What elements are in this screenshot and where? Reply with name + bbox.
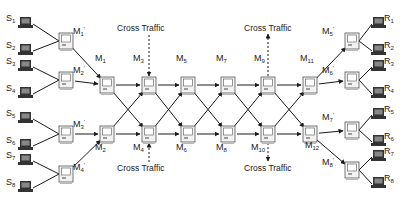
host-link-R3 bbox=[359, 67, 372, 80]
host-link-S3 bbox=[33, 67, 59, 80]
laptop-icon bbox=[18, 112, 33, 123]
router-label: M4 bbox=[133, 142, 145, 153]
laptop-icon bbox=[18, 139, 33, 150]
sender-label: S2 bbox=[6, 40, 16, 51]
router-icon bbox=[345, 33, 359, 51]
router-icon bbox=[142, 126, 156, 144]
host-link-R4 bbox=[359, 80, 372, 94]
link-M12-M7' bbox=[319, 131, 343, 133]
router-label: M2' bbox=[73, 65, 85, 76]
laptop-icon bbox=[18, 44, 33, 55]
laptop-icon bbox=[18, 154, 33, 165]
router-label: M3 bbox=[133, 53, 145, 64]
router-label: M4' bbox=[73, 162, 85, 173]
router-icon bbox=[345, 162, 359, 180]
host-link-R5 bbox=[359, 115, 372, 130]
router-icon bbox=[345, 122, 359, 140]
router-label: M1' bbox=[73, 26, 85, 37]
router-icon bbox=[261, 126, 275, 144]
host-link-R2 bbox=[359, 41, 372, 51]
router-label: M11 bbox=[300, 53, 314, 64]
sender-label: S3 bbox=[6, 56, 16, 67]
link-M11-M6' bbox=[319, 81, 343, 84]
host-link-R6 bbox=[359, 130, 372, 142]
laptop-icon bbox=[18, 17, 33, 28]
cross-traffic-label: Cross Traffic bbox=[117, 163, 165, 173]
sender-label: S5 bbox=[6, 108, 16, 119]
router-icon bbox=[59, 33, 73, 51]
network-diagram: Cross TrafficCross TrafficCross TrafficC… bbox=[0, 0, 406, 197]
router-icon bbox=[142, 77, 156, 95]
host-link-S4 bbox=[33, 80, 59, 94]
host-link-R8 bbox=[359, 170, 372, 184]
receiver-label: R7 bbox=[384, 146, 395, 157]
cross-traffic-label: Cross Traffic bbox=[244, 163, 292, 173]
router-icon bbox=[59, 72, 73, 90]
receiver-label: R1 bbox=[384, 13, 395, 24]
sender-label: S1 bbox=[6, 13, 16, 24]
router-icon bbox=[221, 77, 235, 95]
receiver-label: R3 bbox=[384, 56, 395, 67]
host-link-S6 bbox=[33, 134, 59, 146]
sender-label: S8 bbox=[6, 177, 16, 188]
router-label: M7' bbox=[322, 112, 334, 123]
host-link-S8 bbox=[33, 174, 59, 188]
host-link-R1 bbox=[359, 24, 372, 41]
router-label: M7 bbox=[216, 53, 228, 64]
router-label: M3' bbox=[73, 119, 85, 130]
laptop-icon bbox=[18, 60, 33, 71]
router-icon bbox=[303, 77, 317, 95]
router-label: M6' bbox=[322, 65, 334, 76]
router-label: M1 bbox=[95, 53, 107, 64]
router-icon bbox=[345, 72, 359, 90]
host-link-S5 bbox=[33, 119, 59, 134]
receiver-label: R4 bbox=[384, 83, 395, 94]
receiver-label: R5 bbox=[384, 104, 395, 115]
router-label: M5 bbox=[176, 53, 188, 64]
cross-traffic-label: Cross Traffic bbox=[244, 23, 292, 33]
receiver-label: R8 bbox=[384, 173, 395, 184]
router-label: M9 bbox=[254, 53, 266, 64]
router-icon bbox=[100, 77, 114, 95]
host-link-S1 bbox=[33, 24, 59, 41]
sender-label: S7 bbox=[6, 150, 16, 161]
sender-label: S4 bbox=[6, 83, 16, 94]
host-link-S2 bbox=[33, 41, 59, 51]
laptop-icon bbox=[18, 87, 33, 98]
cross-traffic-label: Cross Traffic bbox=[117, 23, 165, 33]
router-icon bbox=[59, 166, 73, 184]
host-link-R7 bbox=[359, 157, 372, 170]
host-link-S7 bbox=[33, 161, 59, 174]
receiver-label: R6 bbox=[384, 131, 395, 142]
laptop-icon bbox=[18, 181, 33, 192]
router-label: M5' bbox=[322, 26, 334, 37]
router-label: M8' bbox=[322, 157, 334, 168]
router-icon bbox=[59, 126, 73, 144]
router-icon bbox=[181, 77, 195, 95]
router-icon bbox=[261, 77, 275, 95]
receiver-label: R2 bbox=[384, 40, 395, 51]
router-label: M12 bbox=[305, 140, 320, 151]
link-M2'-M1 bbox=[75, 81, 98, 84]
sender-label: S6 bbox=[6, 135, 16, 146]
